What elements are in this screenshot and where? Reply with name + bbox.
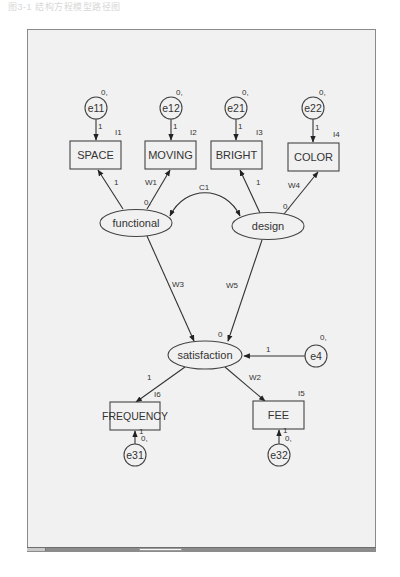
mean-e11: 0, [101,88,108,97]
label-e11: e11 [88,102,105,114]
intercept-color: I4 [333,130,340,139]
weight-e11: 1 [98,122,103,131]
mean-e12: 0, [176,88,183,97]
weight-e32: 1 [283,426,288,435]
label-satisfaction: satisfaction [177,349,232,361]
coef-functional-moving: W1 [145,178,158,187]
label-color: COLOR [294,151,333,163]
label-moving: MOVING [148,149,193,161]
coef-covariance: C1 [199,183,210,192]
label-e32: e32 [270,449,288,461]
weight-e4: 1 [266,345,271,354]
coef-design-bright: 1 [256,178,261,187]
covariance-functional-design [170,193,240,216]
mean-e32: 0, [285,434,292,443]
coef-functional-satisfaction: W3 [172,280,185,289]
label-e21: e21 [227,102,245,114]
weight-e31: 1 [139,427,144,436]
intercept-fee: I5 [298,389,305,398]
mean-functional: 0, [144,198,151,207]
label-bright: BRIGHT [216,149,258,161]
weight-e12: 1 [173,122,178,131]
mean-satisfaction: 0 [218,330,223,339]
label-e31: e31 [126,449,144,461]
coef-design-color: W4 [288,181,301,190]
coef-satisfaction-frequency: 1 [147,373,152,382]
mean-design: 0, [283,202,290,211]
intercept-bright: I3 [256,128,263,137]
horizontal-scrollbar[interactable] [27,547,376,552]
weight-e22: 1 [315,123,320,132]
label-functional: functional [112,217,159,229]
label-design: design [252,220,284,232]
label-e22: e22 [304,102,322,114]
mean-e22: 0, [319,88,326,97]
intercept-frequency: I6 [154,390,161,399]
intercept-space: I1 [115,128,122,137]
weight-e21: 1 [238,122,243,131]
mean-e21: 0, [242,88,249,97]
label-space: SPACE [77,149,113,161]
label-fee: FEE [268,409,289,421]
scroll-left-button[interactable] [27,548,46,551]
label-e4: e4 [310,350,322,362]
coef-satisfaction-fee: W2 [249,373,262,382]
coef-design-satisfaction: W5 [226,281,239,290]
path-design-bright [240,170,260,213]
intercept-moving: I2 [190,128,197,137]
mean-e4: 0, [320,333,327,342]
label-e12: e12 [162,102,180,114]
path-functional-space [98,170,123,209]
sem-path-diagram: SPACE MOVING BRIGHT COLOR FREQUENCY FEE … [0,0,400,577]
path-functional-satisfaction [147,236,194,341]
coef-functional-space: 1 [114,178,119,187]
path-design-satisfaction [228,240,262,341]
label-frequency: FREQUENCY [102,410,168,422]
scroll-thumb[interactable] [139,548,182,551]
